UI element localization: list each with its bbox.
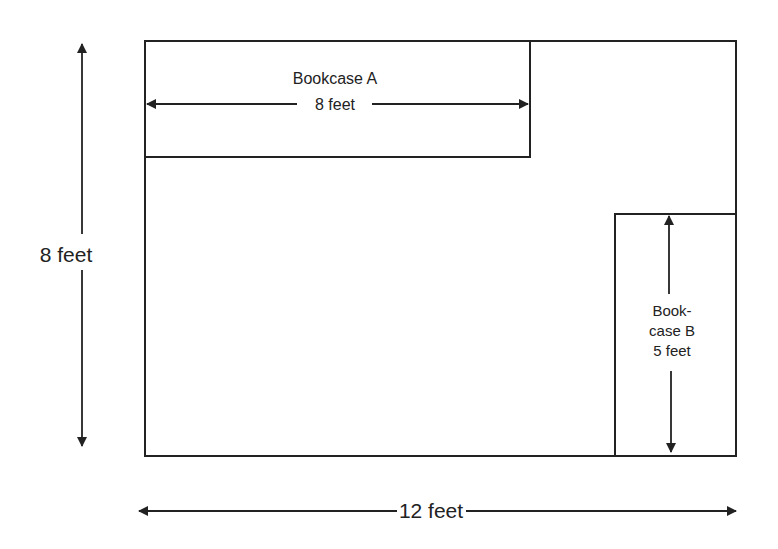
bookcase-b-name-line1: Book-	[652, 302, 691, 319]
bookcase-a-length-label: 8 feet	[315, 96, 356, 113]
room-height-label: 8 feet	[40, 243, 93, 266]
room-diagram: Bookcase A 8 feet Book- case B 5 feet 8 …	[0, 0, 778, 549]
bookcase-b-length-label: 5 feet	[653, 342, 691, 359]
bookcase-a-name: Bookcase A	[293, 70, 378, 87]
bookcase-b-name-line2: case B	[649, 322, 695, 339]
room-width-label: 12 feet	[399, 499, 463, 522]
